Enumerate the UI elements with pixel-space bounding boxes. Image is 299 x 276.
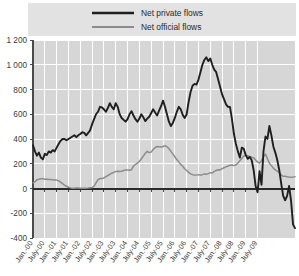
y-axis-tick-label: -200 [11, 209, 28, 218]
y-axis-tick-label: 800 [13, 86, 27, 95]
flows-line-chart: Net private flows Net official flows -40… [0, 0, 299, 276]
y-axis-tick-label: 200 [13, 160, 27, 169]
y-axis-tick-label: 1 200 [7, 36, 28, 45]
x-axis-tick-labels: Jan.-00July-00Jan.-01July-01Jan.-02July-… [13, 239, 259, 264]
y-axis-tick-label: 600 [13, 110, 27, 119]
legend-label-net-private-flows: Net private flows [141, 8, 203, 18]
chart-container: Net private flows Net official flows -40… [0, 0, 299, 276]
y-axis-tick-label: 1 000 [7, 61, 28, 70]
y-axis-tick-label: 0 [22, 185, 27, 194]
y-axis-tick-labels: -400-20002004006008001 0001 200 [7, 36, 28, 243]
y-axis-tick-label: 400 [13, 135, 27, 144]
legend-label-net-official-flows: Net official flows [141, 22, 201, 32]
